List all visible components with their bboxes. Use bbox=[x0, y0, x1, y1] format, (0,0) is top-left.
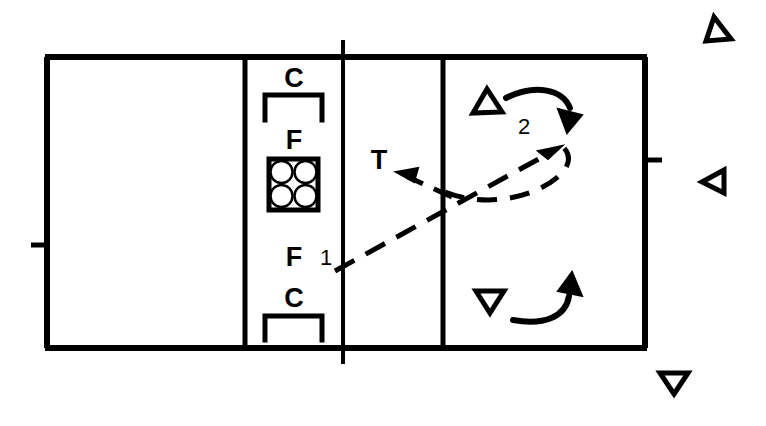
label-f-bottom: F bbox=[286, 242, 303, 272]
edge-ticks bbox=[31, 160, 662, 245]
solid-curve-segment bbox=[506, 90, 570, 108]
label-f-top: F bbox=[286, 125, 303, 155]
label-c-top: C bbox=[284, 63, 304, 93]
arrowhead-to-T bbox=[396, 168, 418, 182]
ball-icon bbox=[271, 185, 293, 207]
four-ball-crate-icon bbox=[269, 159, 318, 210]
bracket-top bbox=[265, 95, 322, 120]
ball-icon bbox=[295, 185, 317, 207]
ball-icon bbox=[271, 161, 293, 183]
triangle-down-outside-icon bbox=[660, 373, 688, 394]
bracket-bottom bbox=[265, 316, 322, 340]
arrowhead-to-2 bbox=[538, 146, 562, 159]
solid-curve-segment bbox=[513, 296, 569, 322]
label-step-one: 1 bbox=[320, 245, 332, 270]
triangle-up-inside-icon bbox=[473, 89, 502, 113]
long-dashed-path-1-to-2 bbox=[335, 146, 562, 271]
triangle-left-outside-icon bbox=[702, 170, 724, 193]
court-outline bbox=[45, 57, 647, 348]
arrowhead-curve-bottom bbox=[558, 272, 582, 296]
triangle-up-outside-icon bbox=[706, 17, 731, 41]
label-step-two: 2 bbox=[518, 114, 530, 139]
label-t-marker: T bbox=[371, 145, 388, 175]
triangle-down-inside-icon bbox=[476, 291, 504, 313]
arrowhead-curve-top bbox=[558, 109, 582, 133]
solid-curve-bottom bbox=[513, 272, 582, 322]
ball-icon bbox=[295, 161, 317, 183]
diagram-svg: C F F C 1 2 T bbox=[0, 0, 766, 426]
diagram-canvas: C F F C 1 2 T bbox=[0, 0, 766, 426]
label-c-bottom: C bbox=[284, 283, 304, 313]
